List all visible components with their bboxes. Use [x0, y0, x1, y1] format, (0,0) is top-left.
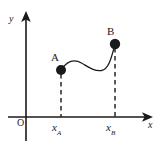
x-tick-subscript-b: B — [111, 129, 115, 137]
function-curve — [61, 45, 115, 71]
x-tick-subscript-a: A — [57, 129, 61, 137]
x-axis-label: x — [148, 120, 152, 130]
x-tick-label-a: xA — [52, 122, 61, 136]
point-marker-b — [110, 39, 120, 49]
origin-label: O — [17, 118, 24, 128]
coordinate-axes-diagram — [0, 0, 162, 145]
x-tick-label-b: xB — [106, 122, 115, 136]
point-marker-a — [56, 65, 66, 75]
point-label-a: A — [51, 52, 59, 63]
point-label-b: B — [107, 26, 114, 37]
y-axis-label: y — [9, 14, 13, 24]
math-figure: y x O A B xA xB — [0, 0, 162, 145]
